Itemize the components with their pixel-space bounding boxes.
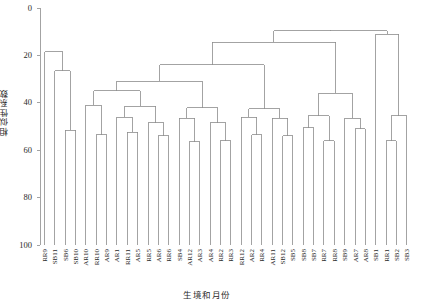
leaf-label-sb2: SB2 <box>393 249 401 261</box>
leaf-label-rr8: RR8 <box>331 249 339 262</box>
leaf-label-rr6: RR6 <box>165 249 173 262</box>
leaf-label-ar3: AR3 <box>196 249 204 262</box>
leaf-label-sb5: SB5 <box>289 249 297 261</box>
leaf-label-rr5: RR5 <box>145 249 153 262</box>
leaf-label-rr12: RR12 <box>238 249 246 265</box>
leaf-label-sb1: SB1 <box>372 249 380 261</box>
leaf-label-sb9: SB9 <box>341 249 349 261</box>
y-tick-label: 0 <box>8 3 32 13</box>
dendrogram-figure: 相似性系数 生境和月份 020406080100 RR9SB11SB6SB10A… <box>0 0 423 306</box>
leaf-label-rr1: RR1 <box>383 249 391 262</box>
leaf-label-sb3: SB3 <box>403 249 411 261</box>
y-axis-title: 相似性系数 <box>1 88 15 136</box>
y-tick-label: 80 <box>8 192 32 202</box>
leaf-label-rr2: RR2 <box>217 249 225 262</box>
y-tick-label: 20 <box>8 50 32 60</box>
leaf-label-ar1: AR1 <box>113 249 121 262</box>
leaf-label-rr10: RR10 <box>93 249 101 265</box>
leaf-label-sb12: SB12 <box>279 249 287 265</box>
leaf-label-sb6: SB6 <box>62 249 70 261</box>
leaf-label-rr7: RR7 <box>320 249 328 262</box>
y-tick-label: 60 <box>8 145 32 155</box>
leaf-label-ar9: AR9 <box>103 249 111 262</box>
leaf-label-rr3: RR3 <box>227 249 235 262</box>
y-tick-label: 40 <box>8 97 32 107</box>
leaf-label-ar2: AR2 <box>248 249 256 262</box>
leaf-label-rr9: RR9 <box>41 249 49 262</box>
leaf-label-sb7: SB7 <box>310 249 318 261</box>
leaf-label-ar11: AR11 <box>269 249 277 265</box>
leaf-label-rr11: RR11 <box>124 249 132 265</box>
leaf-label-ar5: AR5 <box>134 249 142 262</box>
leaf-label-sb11: SB11 <box>51 249 59 264</box>
leaf-label-ar8: AR8 <box>362 249 370 262</box>
leaf-label-ar10: AR10 <box>82 249 90 266</box>
leaf-label-sb10: SB10 <box>72 249 80 265</box>
leaf-label-ar4: AR4 <box>207 249 215 262</box>
y-tick-label: 100 <box>8 240 32 250</box>
leaf-label-sb8: SB8 <box>300 249 308 261</box>
leaf-label-rr4: RR4 <box>258 249 266 262</box>
leaf-label-ar7: AR7 <box>352 249 360 262</box>
x-axis-title: 生境和月份 <box>183 288 231 300</box>
leaf-label-ar12: AR12 <box>186 249 194 266</box>
leaf-label-sb4: SB4 <box>176 249 184 261</box>
leaf-label-ar6: AR6 <box>155 249 163 262</box>
